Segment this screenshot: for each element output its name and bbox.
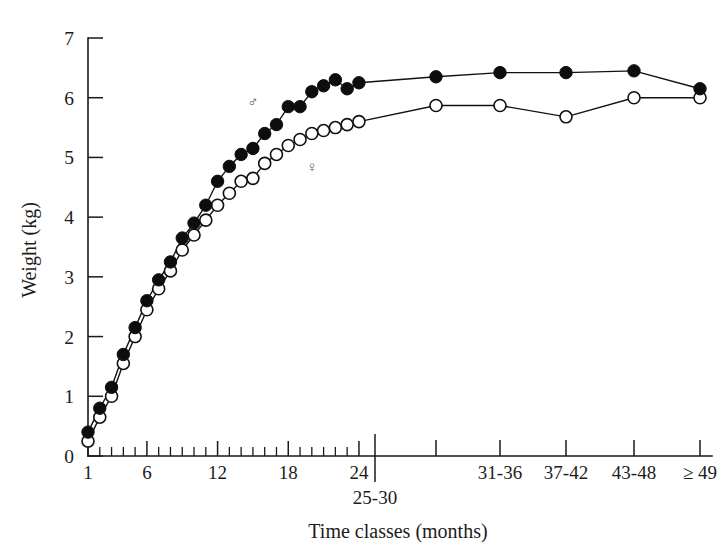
y-tick-label-1: 1	[64, 386, 74, 407]
data-point-males-23	[341, 83, 353, 95]
y-tick-label-0: 0	[64, 446, 74, 467]
data-point-females-37-42	[560, 111, 572, 123]
growth-chart-svg: 01234567 16121824 25-3031-3637-4243-48≥ …	[0, 0, 723, 547]
data-point-females-14	[235, 175, 247, 187]
x-class-label-3: 43-48	[612, 462, 656, 483]
data-point-males-25-30	[430, 71, 442, 83]
data-point-females-22	[329, 122, 341, 134]
data-point-males-9	[176, 232, 188, 244]
data-point-males-19	[294, 100, 306, 112]
data-point-females-25-30	[430, 99, 442, 111]
series-points-females	[82, 92, 706, 447]
x-tick-label-24: 24	[349, 462, 369, 483]
x-class-label-0: 25-30	[353, 487, 397, 508]
data-point-females-31-36	[494, 99, 506, 111]
annotation-male-symbol: ♂	[247, 94, 258, 110]
data-point-females-10	[188, 229, 200, 241]
data-point-females-15	[247, 172, 259, 184]
data-point-males-20	[306, 86, 318, 98]
data-point-males-1	[82, 426, 94, 438]
y-tick-label-3: 3	[64, 267, 74, 288]
data-point-males-12	[211, 175, 223, 187]
data-point-males-37-42	[560, 66, 572, 78]
data-point-females-17	[270, 148, 282, 160]
data-point-females-23	[341, 119, 353, 131]
data-point-males-4	[117, 348, 129, 360]
data-point-males-24	[353, 77, 365, 89]
data-point-males-15	[247, 142, 259, 154]
x-axis-tick-labels: 16121824	[83, 462, 369, 483]
series-line-females	[88, 98, 700, 441]
x-axis-ticks	[88, 434, 700, 482]
data-point-females-18	[282, 139, 294, 151]
data-point-females-20	[306, 128, 318, 140]
data-point-males-10	[188, 217, 200, 229]
data-point-males-13	[223, 160, 235, 172]
x-tick-label-6: 6	[142, 462, 152, 483]
data-point-females-21	[318, 125, 330, 137]
data-point-males-3	[105, 381, 117, 393]
x-tick-label-1: 1	[83, 462, 93, 483]
data-point-males-8	[164, 256, 176, 268]
data-point-females-9	[176, 244, 188, 256]
x-class-label-1: 31-36	[478, 462, 522, 483]
data-point-males-2	[94, 402, 106, 414]
data-point-males-≥ 49	[694, 83, 706, 95]
data-point-females-16	[259, 157, 271, 169]
data-point-males-43-48	[628, 65, 640, 77]
y-tick-label-2: 2	[64, 327, 74, 348]
data-point-males-7	[152, 274, 164, 286]
data-point-females-12	[212, 199, 224, 211]
y-tick-label-7: 7	[64, 28, 74, 49]
data-point-males-18	[282, 100, 294, 112]
y-axis-tick-labels: 01234567	[64, 28, 74, 467]
y-tick-label-5: 5	[64, 147, 74, 168]
data-point-males-11	[200, 199, 212, 211]
y-tick-label-4: 4	[64, 207, 74, 228]
data-point-males-16	[259, 127, 271, 139]
y-tick-label-6: 6	[64, 88, 74, 109]
data-point-females-13	[223, 187, 235, 199]
data-point-males-17	[270, 118, 282, 130]
data-point-females-11	[200, 214, 212, 226]
data-point-males-21	[317, 80, 329, 92]
data-point-females-43-48	[628, 92, 640, 104]
data-point-males-14	[235, 148, 247, 160]
x-axis-title: Time classes (months)	[308, 520, 487, 543]
y-axis-ticks	[88, 38, 103, 456]
x-class-label-2: 37-42	[544, 462, 588, 483]
data-point-males-22	[329, 74, 341, 86]
x-axis-class-labels: 25-3031-3637-4243-48≥ 49	[353, 462, 717, 508]
data-point-females-24	[353, 116, 365, 128]
annotation-female-symbol: ♀	[306, 159, 317, 175]
x-tick-label-12: 12	[208, 462, 227, 483]
x-tick-label-18: 18	[279, 462, 298, 483]
data-point-males-31-36	[494, 66, 506, 78]
data-point-females-19	[294, 134, 306, 146]
y-axis-title: Weight (kg)	[18, 202, 41, 298]
figure-container: 01234567 16121824 25-3031-3637-4243-48≥ …	[0, 0, 723, 547]
data-point-males-6	[141, 295, 153, 307]
data-point-males-5	[129, 321, 141, 333]
x-class-label-4: ≥ 49	[683, 462, 717, 483]
